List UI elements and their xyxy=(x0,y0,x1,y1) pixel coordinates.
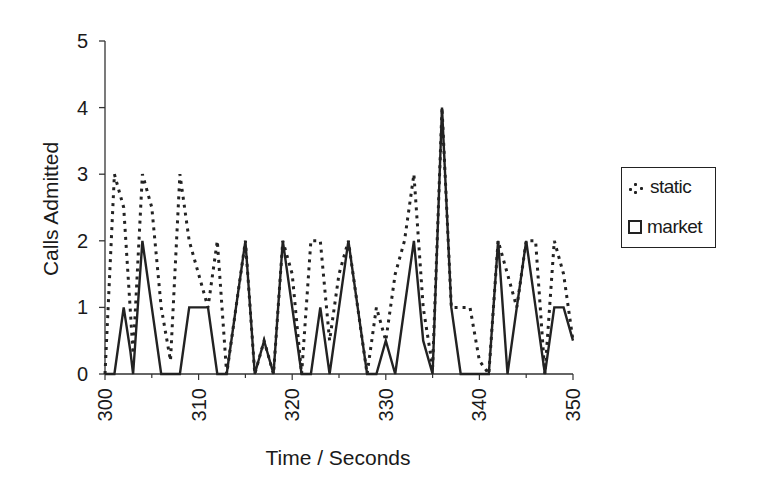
y-tick-label: 4 xyxy=(77,97,88,119)
chart-legend: static market xyxy=(621,167,716,248)
legend-label-static: static xyxy=(650,176,691,198)
y-axis: 012345 xyxy=(77,30,105,385)
legend-item-static: static xyxy=(628,176,691,198)
x-tick-label: 320 xyxy=(281,388,303,421)
x-axis-title: Time / Seconds xyxy=(265,446,410,469)
y-tick-label: 3 xyxy=(77,163,88,185)
x-tick-label: 330 xyxy=(375,388,397,421)
dotted-line-swatch-icon xyxy=(628,180,646,194)
legend-item-market: market xyxy=(628,216,702,238)
x-tick-label: 340 xyxy=(468,388,490,421)
legend-label-market: market xyxy=(647,216,702,238)
y-tick-label: 5 xyxy=(77,30,88,52)
y-tick-label: 2 xyxy=(77,230,88,252)
x-tick-label: 310 xyxy=(188,388,210,421)
y-axis-title: Calls Admitted xyxy=(39,142,62,276)
y-tick-label: 0 xyxy=(77,363,88,385)
y-tick-label: 1 xyxy=(77,296,88,318)
series-static xyxy=(105,108,573,374)
series-layer xyxy=(105,108,573,374)
x-axis: 300310320330340350 xyxy=(94,374,584,421)
series-market xyxy=(105,108,573,374)
x-tick-label: 350 xyxy=(562,388,584,421)
square-swatch-icon xyxy=(628,220,642,234)
x-tick-label: 300 xyxy=(94,388,116,421)
